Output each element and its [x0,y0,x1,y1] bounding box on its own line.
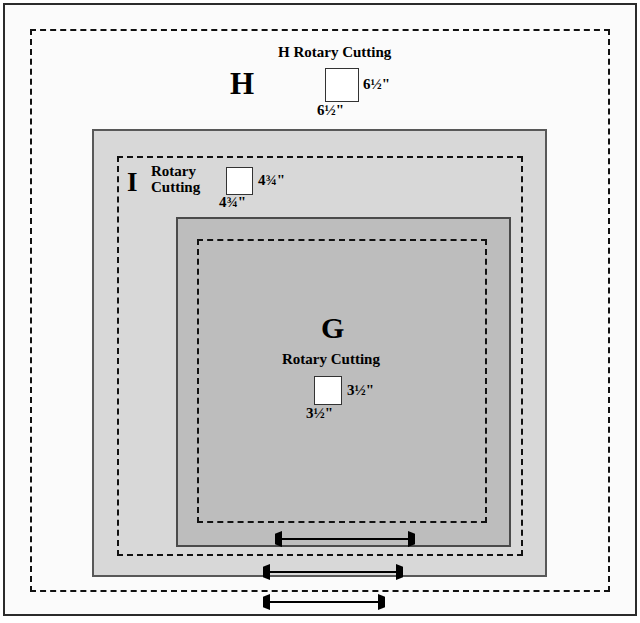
g-label-group: G Rotary Cutting 3½" 3½" [270,313,430,438]
i-title-line1: Rotary [151,164,200,180]
g-width-dimension: 3½" [306,405,333,422]
h-block-letter: H [230,68,254,99]
i-height-dimension: 4¾" [258,172,285,189]
diagram-canvas: H Rotary Cutting H 6½" 6½" I Rotary Cutt… [0,0,640,623]
i-block-letter: I [127,169,138,196]
h-width-arrow-icon [263,592,385,612]
i-cut-square-swatch [226,167,253,195]
g-block-letter: G [321,313,344,343]
i-width-arrow-icon [263,562,403,582]
i-title: Rotary Cutting [151,164,200,196]
g-height-dimension: 3½" [347,382,374,399]
i-label-group: I Rotary Cutting 4¾" 4¾" [123,164,353,220]
g-title: Rotary Cutting [282,351,380,368]
h-title: H Rotary Cutting [278,44,391,61]
h-width-dimension: 6½" [317,102,344,119]
i-title-line2: Cutting [151,180,200,196]
h-label-group: H Rotary Cutting H 6½" 6½" [222,42,442,127]
h-cut-square-swatch [325,68,359,102]
g-cut-square-swatch [314,376,342,405]
g-width-arrow-icon [275,529,415,549]
h-height-dimension: 6½" [363,76,390,93]
i-width-dimension: 4¾" [219,194,246,211]
